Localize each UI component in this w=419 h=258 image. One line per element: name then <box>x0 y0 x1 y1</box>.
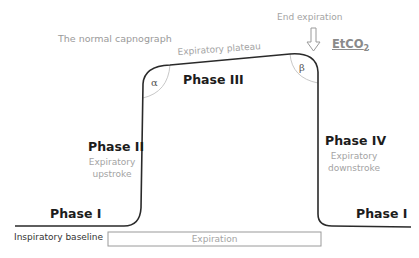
phase-2-desc-line-1: Expiratory <box>88 156 136 168</box>
phase-4-label: Phase IV <box>325 133 386 148</box>
etco2-text: EtCO <box>332 37 364 51</box>
etco2-label: EtCO2 <box>332 37 369 53</box>
diagram-title: The normal capnograph <box>58 33 172 44</box>
phase-3-label: Phase III <box>183 72 244 87</box>
phase-4-desc-line-2: downstroke <box>325 162 383 174</box>
phase-2-label: Phase II <box>88 139 144 154</box>
alpha-symbol: α <box>151 77 158 88</box>
end-expiration-arrow-icon <box>307 28 320 51</box>
phase-2-desc-line-2: upstroke <box>88 168 136 180</box>
inspiratory-baseline-label: Inspiratory baseline <box>14 232 103 242</box>
phase-1-right-label: Phase I <box>356 206 407 221</box>
expiration-label: Expiration <box>108 233 321 245</box>
etco2-subscript: 2 <box>364 44 370 53</box>
beta-symbol: β <box>299 62 305 73</box>
phase-2-description: Expiratory upstroke <box>88 156 136 180</box>
phase-1-left-label: Phase I <box>50 206 101 221</box>
phase-4-desc-line-1: Expiratory <box>325 150 383 162</box>
end-expiration-label: End expiration <box>277 11 342 23</box>
phase-4-description: Expiratory downstroke <box>325 150 383 174</box>
